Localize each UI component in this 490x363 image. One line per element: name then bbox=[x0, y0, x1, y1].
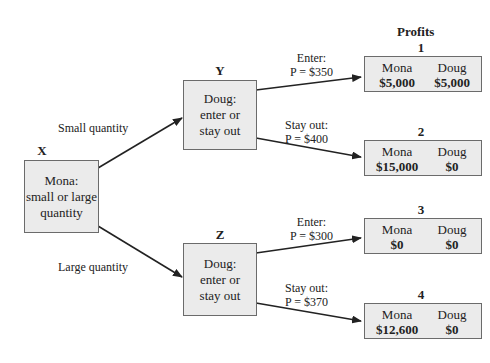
node-x-line-3: quantity bbox=[26, 205, 97, 221]
outcome-1-player2: Doug bbox=[425, 60, 479, 75]
outcome-3-player2: Doug bbox=[425, 222, 479, 237]
outcome-2-payoff-box: Mona $15,000 Doug $0 bbox=[364, 140, 482, 176]
outcome-4-payoff-box: Mona $12,600 Doug $0 bbox=[364, 303, 482, 339]
outcome-2-number: 2 bbox=[362, 124, 480, 140]
edge-label-y-stay: Stay out: P = $400 bbox=[285, 118, 328, 146]
outcome-2-mona: Mona $15,000 bbox=[369, 144, 425, 174]
edge-label-y-enter-line-1: Enter: bbox=[290, 51, 333, 65]
outcome-3-mona: Mona $0 bbox=[369, 222, 425, 252]
node-y-label: Y bbox=[205, 63, 235, 79]
outcome-4-player2-profit: $0 bbox=[425, 322, 479, 337]
profits-title: Profits bbox=[397, 24, 434, 40]
node-z-box: Doug: enter or stay out bbox=[183, 243, 257, 316]
edge-label-z-stay-line-2: P = $370 bbox=[285, 295, 328, 309]
outcome-1-player2-profit: $5,000 bbox=[425, 75, 479, 90]
outcome-4-doug: Doug $0 bbox=[425, 307, 479, 337]
outcome-4-player1-profit: $12,600 bbox=[369, 322, 425, 337]
edge-label-z-stay: Stay out: P = $370 bbox=[285, 281, 328, 309]
outcome-2-player2: Doug bbox=[425, 144, 479, 159]
edge-label-y-stay-line-1: Stay out: bbox=[285, 118, 328, 132]
outcome-2-doug: Doug $0 bbox=[425, 144, 479, 174]
outcome-1-doug: Doug $5,000 bbox=[425, 60, 479, 90]
edge-label-y-enter: Enter: P = $350 bbox=[290, 51, 333, 79]
outcome-1-mona: Mona $5,000 bbox=[369, 60, 425, 90]
outcome-3-number: 3 bbox=[362, 202, 480, 218]
edge-label-small-quantity: Small quantity bbox=[58, 121, 128, 135]
outcome-3-payoff-box: Mona $0 Doug $0 bbox=[364, 218, 482, 254]
outcome-3-player1: Mona bbox=[369, 222, 425, 237]
game-tree-diagram: X Mona: small or large quantity Y Doug: … bbox=[0, 0, 490, 363]
outcome-4-mona: Mona $12,600 bbox=[369, 307, 425, 337]
outcome-1-payoff-box: Mona $5,000 Doug $5,000 bbox=[364, 56, 482, 92]
edge-label-z-enter-line-1: Enter: bbox=[290, 215, 333, 229]
node-z-line-3: stay out bbox=[200, 288, 241, 304]
node-z-line-2: enter or bbox=[200, 272, 241, 288]
node-y-line-2: enter or bbox=[200, 107, 241, 123]
outcome-4-player1: Mona bbox=[369, 307, 425, 322]
edge-label-y-stay-line-2: P = $400 bbox=[285, 132, 328, 146]
node-y-box: Doug: enter or stay out bbox=[183, 80, 257, 150]
node-x-box: Mona: small or large quantity bbox=[24, 160, 99, 233]
outcome-4-number: 4 bbox=[362, 287, 480, 303]
node-x-line-2: small or large bbox=[26, 189, 97, 205]
edge-label-z-stay-line-1: Stay out: bbox=[285, 281, 328, 295]
edge-label-z-enter-line-2: P = $300 bbox=[290, 229, 333, 243]
outcome-3-doug: Doug $0 bbox=[425, 222, 479, 252]
node-y-line-3: stay out bbox=[200, 123, 241, 139]
outcome-2-player2-profit: $0 bbox=[425, 159, 479, 174]
node-z-line-1: Doug: bbox=[200, 256, 241, 272]
outcome-3-player2-profit: $0 bbox=[425, 237, 479, 252]
node-x-line-1: Mona: bbox=[26, 173, 97, 189]
edge-label-large-quantity: Large quantity bbox=[58, 260, 128, 274]
outcome-4-player2: Doug bbox=[425, 307, 479, 322]
outcome-2-player1: Mona bbox=[369, 144, 425, 159]
edge-label-z-enter: Enter: P = $300 bbox=[290, 215, 333, 243]
edge-label-y-enter-line-2: P = $350 bbox=[290, 65, 333, 79]
outcome-1-number: 1 bbox=[362, 40, 480, 56]
outcome-3-player1-profit: $0 bbox=[369, 237, 425, 252]
node-x-label: X bbox=[27, 143, 57, 159]
outcome-1-player1: Mona bbox=[369, 60, 425, 75]
node-y-line-1: Doug: bbox=[200, 91, 241, 107]
outcome-1-player1-profit: $5,000 bbox=[369, 75, 425, 90]
node-z-label: Z bbox=[205, 227, 235, 243]
outcome-2-player1-profit: $15,000 bbox=[369, 159, 425, 174]
